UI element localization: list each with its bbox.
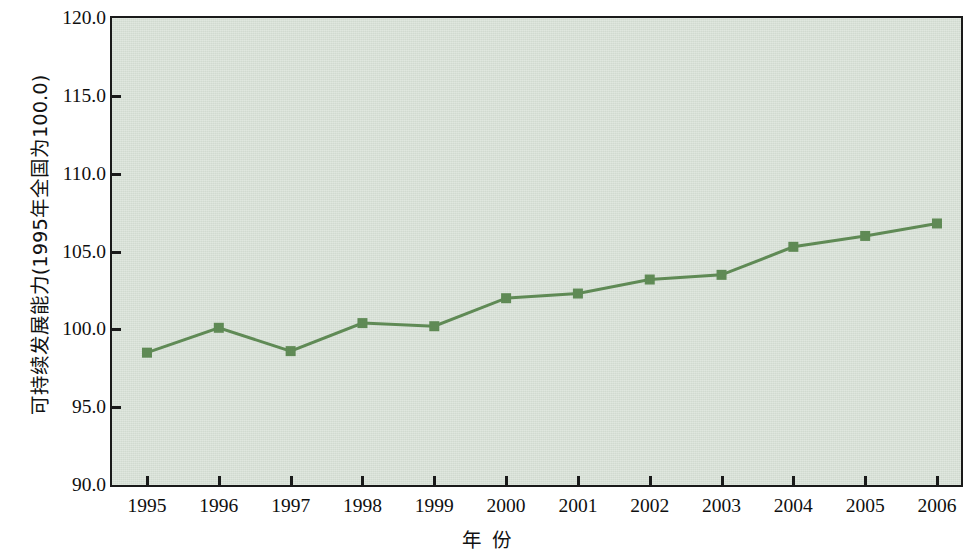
x-axis-tick-label: 2001 — [538, 496, 618, 516]
x-axis-tick-mark — [505, 476, 508, 485]
x-axis-tick-label: 1998 — [322, 496, 402, 516]
y-axis-tick-mark — [112, 251, 121, 254]
x-axis-tick-mark — [936, 476, 939, 485]
line-chart-figure: 可持续发展能力(1995年全国为100.0) 120.0115.0110.010… — [0, 0, 976, 552]
x-axis-tick-mark — [792, 476, 795, 485]
y-axis-tick-mark — [112, 406, 121, 409]
x-axis-tick-labels: 1995199619971998199920002001200220032004… — [110, 496, 963, 524]
data-point-marker — [860, 231, 870, 241]
y-axis-tick-label: 105.0 — [32, 242, 106, 262]
x-axis-title: 年 份 — [0, 524, 976, 552]
x-axis-tick-mark — [649, 476, 652, 485]
data-point-marker — [357, 318, 367, 328]
x-axis-tick-mark — [218, 476, 221, 485]
x-axis-tick-label: 2003 — [682, 496, 762, 516]
x-axis-tick-label: 2004 — [753, 496, 833, 516]
data-point-marker — [501, 293, 511, 303]
x-axis-tick-mark — [361, 476, 364, 485]
x-axis-tick-label: 2000 — [466, 496, 546, 516]
x-axis-tick-mark — [146, 476, 149, 485]
y-axis-tick-label: 110.0 — [32, 164, 106, 184]
data-point-marker — [788, 242, 798, 252]
data-point-marker — [573, 289, 583, 299]
data-point-marker — [645, 275, 655, 285]
series-line — [147, 223, 937, 352]
y-axis-tick-mark — [112, 328, 121, 331]
x-axis-tick-label: 1999 — [394, 496, 474, 516]
data-point-marker — [429, 321, 439, 331]
data-point-marker — [142, 348, 152, 358]
data-point-marker — [286, 346, 296, 356]
y-axis-tick-mark — [112, 173, 121, 176]
y-axis-tick-label: 95.0 — [32, 397, 106, 417]
x-axis-tick-label: 2005 — [825, 496, 905, 516]
x-axis-tick-mark — [864, 476, 867, 485]
y-axis-tick-label: 100.0 — [32, 319, 106, 339]
x-axis-tick-label: 2002 — [610, 496, 690, 516]
y-axis-tick-label: 115.0 — [32, 86, 106, 106]
y-axis-tick-label: 120.0 — [32, 8, 106, 28]
data-point-marker — [214, 323, 224, 333]
data-series-layer — [112, 18, 961, 485]
x-axis-tick-mark — [721, 476, 724, 485]
data-point-marker — [717, 270, 727, 280]
data-point-marker — [932, 218, 942, 228]
x-axis-tick-mark — [433, 476, 436, 485]
x-axis-tick-label: 1996 — [179, 496, 259, 516]
y-axis-tick-labels: 120.0115.0110.0105.0100.095.090.0 — [20, 0, 106, 552]
y-axis-tick-mark — [112, 95, 121, 98]
y-axis-tick-label: 90.0 — [32, 475, 106, 495]
x-axis-tick-label: 1995 — [107, 496, 187, 516]
plot-area — [110, 16, 963, 487]
x-axis-tick-mark — [290, 476, 293, 485]
x-axis-tick-mark — [577, 476, 580, 485]
x-axis-tick-label: 2006 — [897, 496, 976, 516]
x-axis-tick-label: 1997 — [251, 496, 331, 516]
